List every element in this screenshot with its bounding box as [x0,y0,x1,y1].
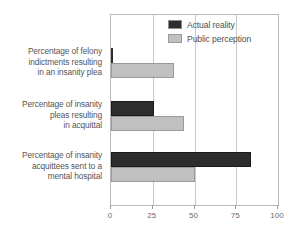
dark-swatch-icon [168,20,182,29]
x-tick-mark [194,205,195,209]
legend: Actual realityPublic perception [168,18,276,46]
bar-actual-reality [111,152,251,167]
legend-label: Public perception [187,34,251,44]
x-tick-label: 75 [231,211,240,220]
x-tick-label: 0 [108,211,112,220]
bar-public-perception [111,63,174,78]
bar-chart: Percentage of felonyindictments resultin… [0,0,293,242]
x-tick-mark [152,205,153,209]
x-tick-mark [110,205,111,209]
bar-public-perception [111,116,184,131]
light-swatch-icon [168,34,182,43]
x-tick-label: 25 [147,211,156,220]
bar-public-perception [111,167,195,182]
category-label-line: Percentage of felony [0,46,102,57]
category-label-line: pleas resulting [0,110,102,121]
category-label: Percentage of felonyindictments resultin… [0,46,102,78]
category-label: Percentage of insanityacquittees sent to… [0,150,102,182]
x-tick-mark [277,205,278,209]
legend-label: Actual reality [187,20,235,30]
category-label-line: acquittees sent to a [0,161,102,172]
category-label-line: mental hospital [0,171,102,182]
category-label-line: Percentage of insanity [0,150,102,161]
legend-item: Public perception [168,32,276,45]
x-tick-mark [235,205,236,209]
bar-actual-reality [111,101,154,116]
x-tick-label: 50 [189,211,198,220]
category-label-line: indictments resulting [0,57,102,68]
category-label-line: Percentage of insanity [0,99,102,110]
category-label-line: in acquittal [0,120,102,131]
x-tick-label: 100 [270,211,283,220]
bar-actual-reality [111,48,113,63]
category-axis-labels: Percentage of felonyindictments resultin… [0,14,106,204]
x-axis: 0255075100 [110,205,278,225]
legend-item: Actual reality [168,18,276,31]
category-label-line: in an insanity plea [0,67,102,78]
category-label: Percentage of insanitypleas resultingin … [0,99,102,131]
